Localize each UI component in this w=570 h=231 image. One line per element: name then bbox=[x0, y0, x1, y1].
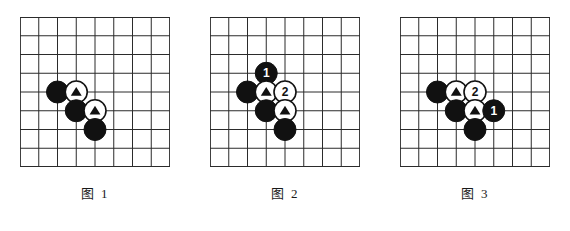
figure-caption: 图 1 bbox=[81, 183, 110, 202]
figure-panel-3: 21图 3 bbox=[380, 0, 570, 231]
go-diagram-row: 图 112图 221图 3 bbox=[0, 0, 570, 231]
go-board-1 bbox=[20, 17, 170, 167]
figure-panel-1: 图 1 bbox=[0, 0, 190, 231]
go-board-3: 21 bbox=[400, 17, 550, 167]
board-grid bbox=[210, 17, 360, 167]
figure-caption: 图 3 bbox=[461, 183, 490, 202]
go-board-2: 12 bbox=[210, 17, 360, 167]
board-grid bbox=[20, 17, 170, 167]
board-grid bbox=[400, 17, 550, 167]
figure-panel-2: 12图 2 bbox=[190, 0, 380, 231]
figure-caption: 图 2 bbox=[271, 183, 300, 202]
